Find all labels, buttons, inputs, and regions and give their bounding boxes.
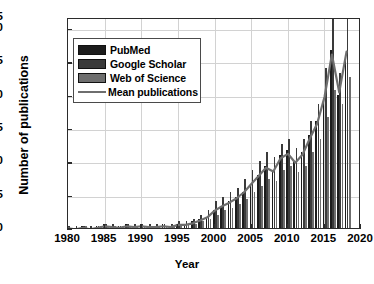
x-tick-mark (287, 224, 288, 229)
x-tick-mark (177, 224, 178, 229)
y-tick-label: 0 (0, 222, 3, 234)
legend-item-mean-publications: Mean publications (78, 85, 196, 98)
y-tick-mark (67, 129, 72, 130)
legend-swatch-google-scholar (78, 59, 106, 69)
x-tick-label: 2020 (330, 232, 374, 244)
y-tick-mark (67, 96, 72, 97)
chart-legend: PubMed Google Scholar Web of Science Mea… (73, 38, 201, 103)
x-tick-mark (250, 224, 251, 229)
x-tick-mark (67, 224, 68, 229)
x-tick-mark (360, 224, 361, 229)
y-tick-mark (67, 18, 72, 19)
legend-label-mean-publications: Mean publications (108, 86, 198, 98)
y-tick-label: 30 (0, 155, 3, 167)
chart-figure: Number of publications PubMed Google Sch… (0, 0, 374, 284)
x-axis-label: Year (0, 258, 374, 270)
y-tick-mark (67, 196, 72, 197)
legend-item-web-of-science: Web of Science (78, 71, 196, 84)
y-axis-label: Number of publications (17, 15, 31, 235)
legend-label-web-of-science: Web of Science (110, 72, 186, 84)
y-tick-label: 45 (0, 122, 3, 134)
y-tick-mark (67, 162, 72, 163)
legend-label-pubmed: PubMed (110, 44, 150, 56)
legend-swatch-web-of-science (78, 73, 106, 83)
y-tick-label: 15 (0, 189, 3, 201)
legend-item-pubmed: PubMed (78, 43, 196, 56)
y-tick-mark (67, 29, 72, 30)
plot-area: PubMed Google Scholar Web of Science Mea… (67, 18, 360, 229)
y-tick-label: 75 (0, 55, 3, 67)
legend-swatch-pubmed (78, 45, 106, 55)
legend-label-google-scholar: Google Scholar (110, 58, 186, 70)
legend-line-mean-publications (78, 87, 106, 97)
legend-item-google-scholar: Google Scholar (78, 57, 196, 70)
y-tick-mark (67, 229, 72, 230)
y-tick-mark (67, 62, 72, 63)
y-tick-label: 60 (0, 89, 3, 101)
x-tick-mark (104, 224, 105, 229)
y-tick-label: 95 (0, 11, 3, 23)
x-tick-mark (214, 224, 215, 229)
x-tick-mark (323, 224, 324, 229)
x-tick-mark (140, 224, 141, 229)
y-tick-label: 90 (0, 22, 3, 34)
